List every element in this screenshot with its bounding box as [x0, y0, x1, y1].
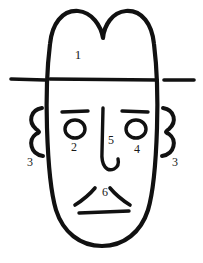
label-forehead: 1 [75, 47, 82, 62]
label-left-ear: 3 [27, 155, 33, 169]
brow-dash-left [11, 79, 45, 80]
label-nose: 5 [108, 133, 114, 147]
label-right-eye: 4 [134, 142, 140, 156]
eyebrow-right-path [122, 111, 148, 112]
brow-line-center [50, 79, 157, 80]
eye-right-shape [126, 120, 146, 138]
eyebrow-left-path [62, 111, 88, 112]
label-mouth: 6 [102, 185, 108, 199]
ear-right-path [162, 108, 174, 156]
label-right-ear: 3 [172, 155, 178, 169]
mustache-left-path [75, 188, 95, 205]
eye-left-shape [65, 120, 85, 138]
label-left-eye: 2 [71, 140, 77, 154]
ear-left-path [31, 108, 43, 156]
mustache-right-path [110, 188, 130, 205]
face-diagram-canvas: 1 2 3 4 5 3 6 [0, 0, 203, 263]
face-diagram-figure: 1 2 3 4 5 3 6 [0, 0, 203, 263]
mouth-path [79, 211, 129, 213]
